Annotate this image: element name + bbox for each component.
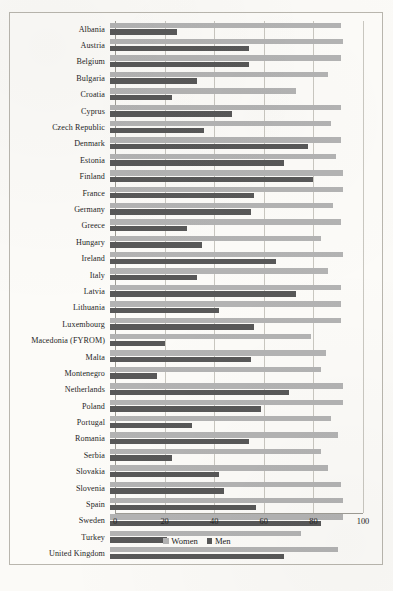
bar-men <box>110 554 284 559</box>
x-tick-label-60: 60 <box>260 516 268 527</box>
bar-group-row: Austria <box>10 37 384 53</box>
bar-group-row: Estonia <box>10 152 384 168</box>
bar-women <box>110 72 328 77</box>
bars-container <box>110 119 384 135</box>
legend-swatch-men-icon <box>207 538 213 544</box>
bar-group-row: Poland <box>10 398 384 414</box>
bar-men <box>110 390 289 395</box>
bar-men <box>110 406 261 411</box>
bar-women <box>110 105 341 110</box>
category-label: Hungary <box>10 238 110 247</box>
bar-women <box>110 482 341 487</box>
bar-group-row: Luxembourg <box>10 316 384 332</box>
bar-men <box>110 505 256 510</box>
category-label: Spain <box>10 500 110 509</box>
category-label: Denmark <box>10 139 110 148</box>
bars-container <box>110 169 384 185</box>
bars-container <box>110 332 384 348</box>
category-label: Croatia <box>10 90 110 99</box>
category-label: United Kingdom <box>10 549 110 558</box>
bars-container <box>110 54 384 70</box>
bars-container <box>110 267 384 283</box>
category-label: Lithuania <box>10 303 110 312</box>
bars-container <box>110 300 384 316</box>
bar-group-row: Lithuania <box>10 300 384 316</box>
bar-group-row: Hungary <box>10 234 384 250</box>
bars-container <box>110 447 384 463</box>
bar-women <box>110 252 343 257</box>
bar-men <box>110 46 249 51</box>
x-tick-label-40: 40 <box>210 516 218 527</box>
category-label: Slovakia <box>10 467 110 476</box>
x-axis-tick-labels: 020406080100 <box>115 516 363 530</box>
bars-container <box>110 382 384 398</box>
bar-group-row: Slovenia <box>10 480 384 496</box>
bar-women <box>110 39 343 44</box>
bars-container <box>110 218 384 234</box>
category-label: Romania <box>10 434 110 443</box>
x-tick-label-100: 100 <box>357 516 370 527</box>
bar-women <box>110 236 321 241</box>
bar-men <box>110 275 197 280</box>
bar-women <box>110 318 341 323</box>
category-label: Belgium <box>10 57 110 66</box>
bar-men <box>110 193 254 198</box>
legend-label-women: Women <box>171 536 198 546</box>
bars-container <box>110 87 384 103</box>
bar-group-row: Cyprus <box>10 103 384 119</box>
bar-women <box>110 400 343 405</box>
x-axis-line <box>115 513 363 514</box>
bar-chart: AlbaniaAustriaBelgiumBulgariaCroatiaCypr… <box>10 13 384 566</box>
bar-group-row: Finland <box>10 169 384 185</box>
legend-item-men: Men <box>207 536 231 546</box>
bars-container <box>110 37 384 53</box>
category-label: Finland <box>10 172 110 181</box>
bars-container <box>110 152 384 168</box>
bar-group-row: Czech Republic <box>10 119 384 135</box>
bar-group-row: Spain <box>10 496 384 512</box>
bar-men <box>110 111 232 116</box>
chart-legend: Women Men <box>10 536 384 546</box>
bar-group-row: Croatia <box>10 87 384 103</box>
category-label: Greece <box>10 221 110 230</box>
category-label: Macedonia (FYROM) <box>10 336 110 345</box>
bar-men <box>110 488 224 493</box>
bar-women <box>110 334 311 339</box>
bar-group-row: Slovakia <box>10 464 384 480</box>
bar-group-row: Albania <box>10 21 384 37</box>
bar-men <box>110 144 308 149</box>
bars-container <box>110 316 384 332</box>
bar-women <box>110 55 341 60</box>
bar-group-row: Romania <box>10 431 384 447</box>
bar-group-row: Serbia <box>10 447 384 463</box>
category-label: Cyprus <box>10 107 110 116</box>
category-label: Luxembourg <box>10 320 110 329</box>
bar-men <box>110 226 187 231</box>
category-label: Serbia <box>10 451 110 460</box>
bar-men <box>110 455 172 460</box>
bars-container <box>110 283 384 299</box>
category-label: Ireland <box>10 254 110 263</box>
bar-group-row: Italy <box>10 267 384 283</box>
bar-men <box>110 160 284 165</box>
bar-women <box>110 187 343 192</box>
bars-container <box>110 136 384 152</box>
bar-men <box>110 242 202 247</box>
bars-container <box>110 414 384 430</box>
category-label: Italy <box>10 271 110 280</box>
bar-women <box>110 203 333 208</box>
bar-women <box>110 23 341 28</box>
chart-frame: AlbaniaAustriaBelgiumBulgariaCroatiaCypr… <box>9 12 383 565</box>
bar-men <box>110 341 165 346</box>
bar-women <box>110 268 328 273</box>
bar-men <box>110 29 177 34</box>
category-label: Bulgaria <box>10 74 110 83</box>
bar-group-row: Germany <box>10 201 384 217</box>
bar-men <box>110 439 249 444</box>
bars-container <box>110 398 384 414</box>
bar-group-row: Greece <box>10 218 384 234</box>
bars-container <box>110 546 384 562</box>
category-label: Albania <box>10 25 110 34</box>
bars-container <box>110 480 384 496</box>
bar-women <box>110 350 326 355</box>
